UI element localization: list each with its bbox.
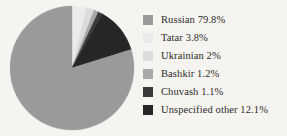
legend-swatch-russian — [143, 15, 153, 25]
legend-item-chuvash[interactable]: Chuvash 1.1% — [143, 83, 287, 101]
pie-chart-figure: Russian 79.8% Tatar 3.8% Ukrainian 2% Ba… — [0, 0, 287, 136]
legend-label-bashkir: Bashkir 1.2% — [161, 68, 219, 80]
legend-label-ukrainian: Ukrainian 2% — [161, 50, 221, 62]
legend-label-tatar: Tatar 3.8% — [161, 32, 208, 44]
legend-item-ukrainian[interactable]: Ukrainian 2% — [143, 47, 287, 65]
legend-item-unspecified-other[interactable]: Unspecified other 12.1% — [143, 101, 287, 119]
legend-label-unspecified-other: Unspecified other 12.1% — [161, 104, 268, 116]
legend-item-tatar[interactable]: Tatar 3.8% — [143, 29, 287, 47]
legend-swatch-unspecified-other — [143, 105, 153, 115]
pie-chart-svg — [10, 2, 136, 135]
legend-label-chuvash: Chuvash 1.1% — [161, 86, 223, 98]
pie-chart-area — [10, 2, 136, 135]
legend-swatch-bashkir — [143, 69, 153, 79]
chart-legend: Russian 79.8% Tatar 3.8% Ukrainian 2% Ba… — [143, 11, 287, 129]
legend-item-bashkir[interactable]: Bashkir 1.2% — [143, 65, 287, 83]
legend-swatch-tatar — [143, 33, 153, 43]
legend-label-russian: Russian 79.8% — [161, 14, 225, 26]
legend-item-russian[interactable]: Russian 79.8% — [143, 11, 287, 29]
legend-swatch-ukrainian — [143, 51, 153, 61]
legend-swatch-chuvash — [143, 87, 153, 97]
pie-slice-group — [10, 6, 134, 130]
